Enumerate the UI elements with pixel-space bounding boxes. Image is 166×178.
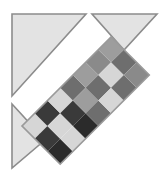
figure-canvas [0, 0, 166, 178]
geometric-figure [0, 0, 166, 178]
